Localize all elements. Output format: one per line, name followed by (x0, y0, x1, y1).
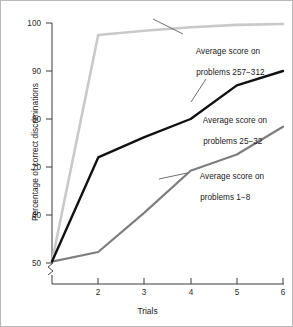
y-tick-marks (46, 23, 52, 263)
leader-line-257-312 (153, 19, 183, 34)
annotation-25-32-line1: Average score on (203, 116, 267, 125)
annotation-1-8-line1: Average score on (200, 172, 264, 181)
annotation-257-312-line1: Average score on (196, 47, 260, 56)
x-tick-label-5: 5 (229, 288, 245, 297)
annotation-problems-257-312: Average score on problems 257−312 (187, 37, 265, 89)
x-tick-marks (98, 278, 283, 284)
annotation-257-312-line2: problems 257−312 (196, 68, 264, 77)
axis-break-icon (48, 263, 53, 275)
annotation-25-32-line2: problems 25−32 (203, 137, 262, 146)
x-tick-label-6: 6 (275, 288, 291, 297)
annotation-problems-1-8: Average score on problems 1−8 (191, 162, 264, 214)
annotation-problems-25-32: Average score on problems 25−32 (194, 106, 267, 158)
x-axis-title: Trials (1, 306, 293, 316)
y-axis-title: Percentage of correct discriminations (30, 52, 40, 252)
x-tick-label-3: 3 (136, 288, 152, 297)
y-tick-label-50: 50 (21, 259, 41, 268)
x-tick-label-2: 2 (90, 288, 106, 297)
annotation-1-8-line2: problems 1−8 (200, 193, 250, 202)
y-tick-label-100: 100 (21, 19, 41, 28)
chart-figure: 100 90 80 70 60 50 2 3 4 5 6 Percentage … (0, 0, 293, 327)
x-tick-label-4: 4 (183, 288, 199, 297)
